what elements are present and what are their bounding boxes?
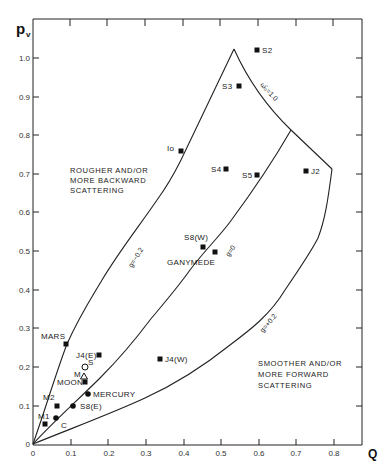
point-s8e-marker [70,403,76,409]
point-s2-marker [255,48,260,53]
x-tick-label: 0.4 [178,449,190,458]
phase-albedo-chart: 0 0.1 0.2 0.3 0.4 0.5 0.6 0.7 0.8 0 0.1 … [0,0,389,473]
y-tick-label: 0.7 [19,170,31,179]
x-tick-labels: 0 0.1 0.2 0.3 0.4 0.5 0.6 0.7 0.8 [31,449,340,458]
y-axis-title: p [16,20,25,37]
region-label-line: MORE BACKWARD [70,176,146,185]
point-j4w-marker [158,357,163,362]
point-mercury-marker [85,391,91,397]
point-moon-label: MOON [57,378,83,387]
point-s5-label: S5 [242,171,253,180]
point-j2-label: J2 [311,167,320,176]
point-s2-label: S2 [262,46,273,55]
point-m2-label: M2 [43,393,55,402]
curve-label-g-plus-0.2: g=+0.2 [258,312,278,334]
point-s5-marker [255,173,260,178]
point-m1-label: M1 [38,412,50,421]
region-label-line: SMOOTHER AND/OR [258,359,342,368]
x-tick-label: 0 [31,449,36,458]
point-m2-marker [55,404,60,409]
point-s3-label: S3 [222,82,233,91]
point-mars-marker [64,342,69,347]
point-io-label: Io [167,144,175,153]
curve-albedo-1.0 [234,49,332,169]
y-tick-label: 0.2 [19,363,31,372]
y-tick-label: 0.5 [19,247,31,256]
point-mercury-label: MERCURY [93,390,136,399]
point-j4w-label: J4(W) [165,355,188,364]
x-tick-label: 0.1 [65,449,77,458]
x-tick-label: 0.5 [215,449,227,458]
x-axis-title: Q [368,447,377,461]
curve-label-g-minus-0.2: g=−0.2 [127,246,145,269]
x-tick-label: 0.2 [103,449,115,458]
region-label-line: SCATTERING [258,381,312,390]
y-tick-label: 1.0 [19,54,31,63]
point-j2-marker [304,169,309,174]
x-tick-label: 0.7 [290,449,302,458]
point-s8e-label: S8(E) [80,402,102,411]
point-c-label: C [61,421,67,430]
point-s-label: S [88,358,94,367]
point-s4-label: S4 [211,165,222,174]
y-tick-label: 0.3 [19,324,31,333]
curve-g-plus-0.2 [33,169,332,444]
point-j4e-marker [97,353,102,358]
region-label-line: MORE FORWARD [258,370,329,379]
point-s8w-marker [201,245,206,250]
point-io-marker [179,149,184,154]
y-tick-labels: 0 0.1 0.2 0.3 0.4 0.5 0.6 0.7 0.8 0.9 1.… [19,54,31,449]
point-s3-marker [237,84,242,89]
point-s4-marker [224,167,229,172]
point-ganymede-label: GANYMEDE [167,258,215,267]
y-tick-label: 0.8 [19,131,31,140]
region-label-line: SCATTERING [70,186,124,195]
y-tick-label: 0.4 [19,286,31,295]
point-s8w-label: S8(W) [184,233,208,242]
point-moon-marker [83,380,88,385]
y-tick-label: 0.1 [19,402,31,411]
region-label-upper: ROUGHER AND/OR MORE BACKWARD SCATTERING [70,166,148,195]
x-tick-label: 0.6 [253,449,265,458]
y-tick-label: 0.6 [19,208,31,217]
point-ganymede-marker [213,250,218,255]
y-tick-label: 0 [26,440,31,449]
curve-label-albedo: ω̄₀=1.0 [259,81,279,102]
curve-label-g-0: g=0 [224,244,237,258]
region-label-line: ROUGHER AND/OR [70,166,148,175]
point-mars-label: MARS [41,332,65,341]
x-tick-label: 0.8 [328,449,340,458]
point-m1-marker [43,422,48,427]
y-axis-title-subscript: v [26,30,31,39]
region-label-lower: SMOOTHER AND/OR MORE FORWARD SCATTERING [258,359,342,390]
y-tick-label: 0.9 [19,93,31,102]
point-c-marker [53,415,59,421]
x-tick-label: 0.3 [140,449,152,458]
